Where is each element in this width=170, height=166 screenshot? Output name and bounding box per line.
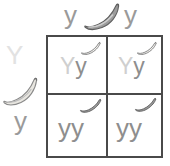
allele-2: y xyxy=(129,113,142,143)
banana-icon xyxy=(82,2,122,32)
top-parent-allele-1: y xyxy=(64,2,77,28)
allele-1: Y xyxy=(118,53,133,79)
punnett-cell-bottom-right[interactable]: yy xyxy=(108,95,161,158)
punnett-cell-top-right[interactable]: Yy xyxy=(108,37,161,93)
genotype-bottom-right: yy xyxy=(116,115,142,141)
allele-2: y xyxy=(133,53,145,79)
genotype-bottom-left: yy xyxy=(58,115,84,141)
allele-1: y xyxy=(116,113,129,143)
left-parent-allele-2: y xyxy=(14,108,27,134)
punnett-cell-top-left[interactable]: Yy xyxy=(48,37,106,93)
punnett-cell-bottom-left[interactable]: yy xyxy=(48,95,106,158)
allele-1: y xyxy=(58,113,71,143)
allele-2: y xyxy=(75,53,87,79)
banana-icon xyxy=(2,76,40,108)
genotype-top-left: Yy xyxy=(60,55,87,78)
allele-1: Y xyxy=(60,53,75,79)
punnett-square-diagram: y y Y y xyxy=(0,0,170,166)
top-parent-allele-2: y xyxy=(124,2,137,28)
punnett-grid: Yy Yy yy xyxy=(46,35,163,158)
genotype-top-right: Yy xyxy=(118,55,145,78)
left-parent-allele-1: Y xyxy=(6,42,23,68)
banana-icon xyxy=(134,98,158,113)
banana-icon xyxy=(79,99,103,114)
allele-2: y xyxy=(71,113,84,143)
